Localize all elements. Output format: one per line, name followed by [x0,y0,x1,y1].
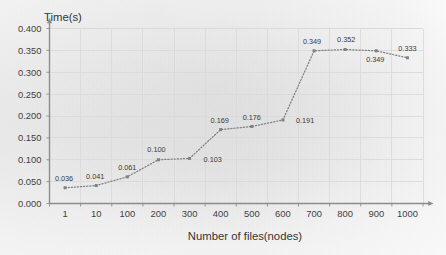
data-label: 0.349 [366,55,384,64]
data-point-marker [219,128,222,131]
data-point-labels: 0.0360.0410.0610.1000.1030.1690.1760.191… [55,35,417,183]
data-point-marker [157,158,160,161]
data-label: 0.191 [296,116,314,125]
x-tick-label: 800 [337,208,353,219]
y-axis-tick-labels: 0.4000.3500.3000.2500.2000.1500.1000.050… [18,23,49,209]
x-axis-tick-labels: 1101002003004005006007008009001000 [50,204,424,220]
data-label: 0.352 [337,35,355,44]
y-tick-label: 0.000 [18,198,41,209]
y-tick-label: 0.200 [18,110,41,121]
y-tick-label: 0.250 [18,89,41,100]
x-tick-label: 600 [275,208,291,219]
data-point-marker [188,157,191,160]
x-axis-title: Number of files(nodes) [188,230,303,242]
data-label: 0.061 [118,163,136,172]
data-point-marker [375,49,378,52]
x-tick-label: 200 [151,208,167,219]
data-label: 0.041 [86,172,104,181]
x-tick-label: 1 [62,208,67,219]
y-tick-label: 0.350 [18,45,41,56]
data-point-marker [126,175,129,178]
y-tick-label: 0.150 [18,132,41,143]
x-tick-label: 1000 [397,208,418,219]
data-point-marker [344,48,347,51]
x-tick-label: 700 [306,208,322,219]
data-label: 0.333 [398,44,416,53]
data-point-marker [250,125,253,128]
data-point-marker [64,186,67,189]
x-tick-label: 300 [182,208,198,219]
chart-canvas: 0.4000.3500.3000.2500.2000.1500.1000.050… [0,0,446,255]
x-tick-label: 500 [244,208,260,219]
data-point-marker [313,49,316,52]
data-point-marker [95,184,98,187]
data-point-marker [406,56,409,59]
x-tick-label: 10 [91,208,101,219]
data-label: 0.349 [303,37,321,46]
y-tick-label: 0.300 [18,67,41,78]
x-tick-label: 100 [119,208,135,219]
y-tick-label: 0.400 [18,23,41,34]
line-chart: 0.4000.3500.3000.2500.2000.1500.1000.050… [0,0,446,255]
y-tick-label: 0.050 [18,176,41,187]
data-point-marker [281,118,284,121]
data-label: 0.100 [147,145,165,154]
y-axis-title: Time(s) [44,11,82,23]
x-axis-line [50,201,434,206]
x-tick-label: 900 [368,208,384,219]
x-tick-label: 400 [213,208,229,219]
data-label: 0.169 [211,116,229,125]
data-label: 0.176 [243,113,261,122]
y-tick-label: 0.100 [18,154,41,165]
y-axis-line [47,18,52,204]
data-label: 0.036 [55,174,73,183]
data-label: 0.103 [204,155,222,164]
